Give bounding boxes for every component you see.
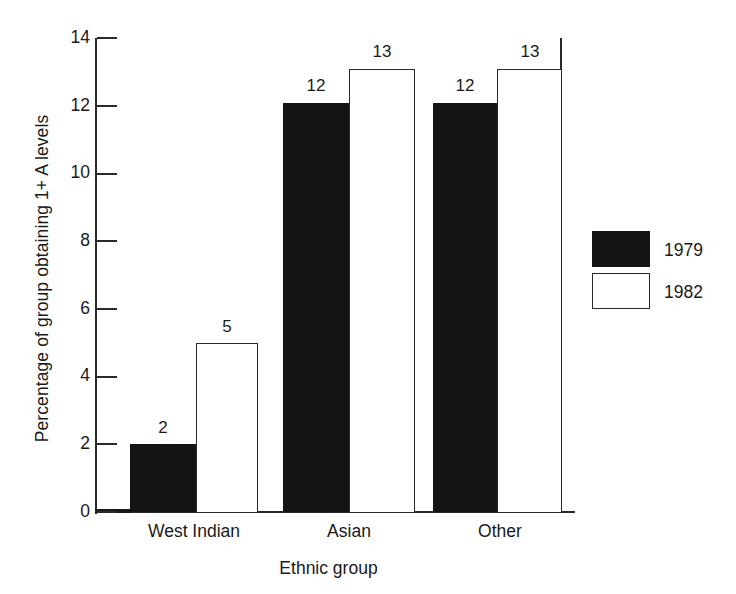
legend-label-1982: 1982 [664,282,703,303]
x-axis-title: Ethnic group [95,558,562,579]
legend-swatch-1982 [592,273,650,309]
y-tick-2 [97,443,117,445]
y-tick-8 [97,240,117,242]
x-group-label-other: Other [447,521,553,542]
bar-west-indian-1982 [196,343,258,512]
y-tick-label-14: 14 [44,27,90,48]
y-tick-12 [97,105,117,107]
y-tick-label-6: 6 [44,298,90,319]
x-group-label-asian: Asian [296,521,402,542]
bar-west-indian-1979 [130,444,196,512]
bar-other-1982 [497,69,562,512]
y-tick-label-10: 10 [44,162,90,183]
y-tick-4 [97,376,117,378]
y-tick-label-4: 4 [44,365,90,386]
bar-value-asian-1979: 12 [286,76,346,96]
y-tick-10 [97,173,117,175]
y-tick-label-2: 2 [44,433,90,454]
bar-asian-1979 [283,103,349,512]
bar-value-west-indian-1982: 5 [197,317,257,337]
bar-value-asian-1982: 13 [352,42,412,62]
y-tick-label-0: 0 [44,501,90,522]
y-tick-14 [97,37,117,39]
bar-chart-figure: Percentage of group obtaining 1+ A level… [0,0,736,594]
bar-value-other-1979: 12 [435,76,495,96]
y-tick-label-8: 8 [44,230,90,251]
y-tick-6 [97,308,117,310]
bar-value-west-indian-1979: 2 [133,418,193,438]
bar-value-other-1982: 13 [500,42,560,62]
legend-swatch-1979 [592,231,650,267]
y-tick-0 [97,511,117,513]
bar-asian-1982 [349,69,415,512]
x-group-label-west-indian: West Indian [118,521,270,542]
y-axis-title: Percentage of group obtaining 1+ A level… [32,69,53,489]
y-tick-label-12: 12 [44,95,90,116]
bar-other-1979 [433,103,497,512]
legend-label-1979: 1979 [664,240,703,261]
